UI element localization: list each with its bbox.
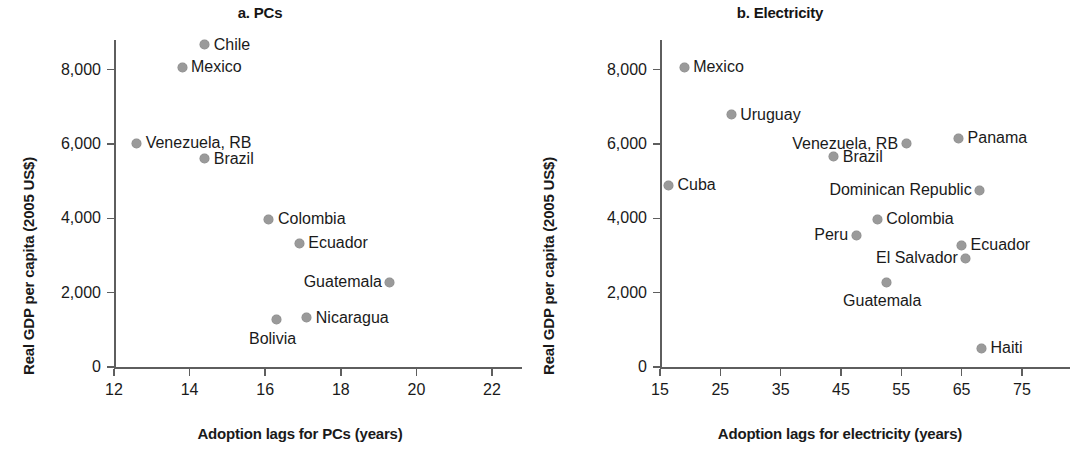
scatter-point-label: Bolivia [249, 330, 296, 348]
y-tick-label: 4,000 [557, 209, 647, 227]
scatter-point-label: Guatemala [304, 273, 382, 291]
scatter-point-marker[interactable] [264, 215, 273, 224]
scatter-point-label: Nicaragua [316, 309, 389, 327]
scatter-point-marker[interactable] [961, 254, 970, 263]
x-tick-label: 16 [256, 381, 274, 399]
x-tick-label: 35 [772, 381, 790, 399]
scatter-point-marker[interactable] [200, 40, 209, 49]
scatter-point-marker[interactable] [178, 63, 187, 72]
x-tick-label: 18 [332, 381, 350, 399]
y-tick-mark [107, 69, 114, 71]
x-tick-label: 22 [483, 381, 501, 399]
y-axis-line [660, 40, 662, 367]
x-tick-label: 14 [181, 381, 199, 399]
x-tick-mark [113, 369, 115, 376]
x-tick-mark [901, 369, 903, 376]
scatter-point-marker[interactable] [977, 344, 986, 353]
scatter-point-label: Panama [968, 129, 1028, 147]
y-tick-mark [653, 218, 660, 220]
x-tick-label: 55 [892, 381, 910, 399]
scatter-point-label: Peru [814, 226, 848, 244]
x-tick-mark [961, 369, 963, 376]
y-tick-label: 2,000 [557, 284, 647, 302]
scatter-point-marker[interactable] [132, 139, 141, 148]
y-tick-label: 8,000 [11, 61, 101, 79]
x-tick-label: 12 [105, 381, 123, 399]
scatter-point-marker[interactable] [272, 315, 281, 324]
scatter-point-marker[interactable] [829, 152, 838, 161]
x-axis-line [114, 367, 522, 369]
x-tick-label: 15 [651, 381, 669, 399]
scatter-point-label: El Salvador [876, 249, 958, 267]
scatter-point-marker[interactable] [295, 239, 304, 248]
x-tick-mark [416, 369, 418, 376]
x-tick-mark [1021, 369, 1023, 376]
x-tick-mark [780, 369, 782, 376]
y-tick-mark [107, 143, 114, 145]
scatter-point-label: Mexico [191, 58, 242, 76]
y-tick-mark [653, 292, 660, 294]
y-axis-line [114, 40, 116, 367]
scatter-point-label: Colombia [278, 210, 346, 228]
x-tick-mark [340, 369, 342, 376]
y-tick-mark [653, 69, 660, 71]
panel-b-title: b. Electricity [520, 4, 1074, 21]
x-tick-mark [659, 369, 661, 376]
x-axis-title-electricity: Adoption lags for electricity (years) [718, 425, 962, 442]
panel-electricity: b. Electricity 02,0004,0006,0008,0001525… [520, 0, 1040, 454]
scatter-point-label: Dominican Republic [829, 181, 971, 199]
plot-area-electricity: 02,0004,0006,0008,00015253545556575Mexic… [660, 40, 1040, 367]
scatter-point-marker[interactable] [680, 63, 689, 72]
scatter-point-label: Guatemala [843, 292, 921, 310]
scatter-point-label: Colombia [886, 210, 954, 228]
x-axis-title-pcs: Adoption lags for PCs (years) [197, 425, 402, 442]
y-tick-mark [107, 218, 114, 220]
scatter-point-marker[interactable] [385, 278, 394, 287]
scatter-point-marker[interactable] [954, 134, 963, 143]
scatter-point-marker[interactable] [902, 139, 911, 148]
x-tick-mark [189, 369, 191, 376]
scatter-point-label: Uruguay [740, 106, 800, 124]
scatter-point-marker[interactable] [873, 215, 882, 224]
scatter-point-marker[interactable] [852, 231, 861, 240]
scatter-point-label: Haiti [990, 339, 1022, 357]
x-tick-label: 65 [953, 381, 971, 399]
y-tick-label: 8,000 [557, 61, 647, 79]
scatter-point-marker[interactable] [200, 154, 209, 163]
y-tick-label: 6,000 [11, 135, 101, 153]
x-tick-mark [264, 369, 266, 376]
scatter-point-label: Chile [214, 36, 250, 54]
scatter-point-marker[interactable] [302, 313, 311, 322]
scatter-point-label: Ecuador [308, 234, 368, 252]
y-tick-mark [653, 143, 660, 145]
x-tick-label: 20 [407, 381, 425, 399]
x-tick-label: 75 [1013, 381, 1031, 399]
y-axis-title-pcs: Real GDP per capita (2005 US$) [20, 157, 37, 375]
scatter-point-label: Mexico [693, 58, 744, 76]
panel-pcs: a. PCs 02,0004,0006,0008,000121416182022… [0, 0, 520, 454]
scatter-point-marker[interactable] [664, 181, 673, 190]
scatter-point-label: Brazil [214, 150, 254, 168]
scatter-point-marker[interactable] [975, 186, 984, 195]
scatter-point-label: Brazil [843, 148, 883, 166]
scatter-point-label: Cuba [677, 176, 715, 194]
x-tick-mark [491, 369, 493, 376]
scatter-point-label: Ecuador [971, 236, 1031, 254]
x-tick-label: 45 [832, 381, 850, 399]
scatter-point-marker[interactable] [957, 241, 966, 250]
scatter-point-marker[interactable] [882, 278, 891, 287]
y-tick-label: 0 [557, 358, 647, 376]
x-tick-label: 25 [711, 381, 729, 399]
y-tick-label: 6,000 [557, 135, 647, 153]
y-axis-title-electricity: Real GDP per capita (2005 US$) [540, 157, 557, 375]
y-tick-mark [107, 292, 114, 294]
x-tick-mark [840, 369, 842, 376]
x-tick-mark [720, 369, 722, 376]
x-axis-line [660, 367, 1070, 369]
scatter-point-marker[interactable] [727, 110, 736, 119]
plot-area-pcs: 02,0004,0006,0008,000121416182022ChileMe… [114, 40, 492, 367]
